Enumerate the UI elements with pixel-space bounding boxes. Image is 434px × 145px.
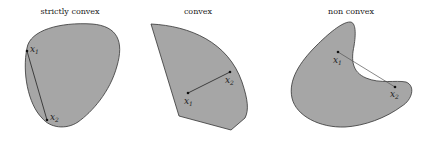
point-x2 (394, 86, 397, 89)
panel-title: strictly convex (40, 7, 100, 16)
point-x1 (26, 50, 29, 53)
panel-title: convex (184, 7, 213, 16)
point-x1 (187, 92, 190, 95)
point-x1 (337, 51, 340, 54)
panel-non-convex: non convex x1 x2 (291, 7, 412, 127)
non-convex-set (291, 22, 412, 127)
point-x2 (46, 119, 49, 122)
panel-title: non convex (328, 7, 374, 16)
point-x2 (229, 71, 232, 74)
panel-strictly-convex: strictly convex x1 x2 (25, 7, 119, 127)
strictly-convex-set (25, 24, 119, 127)
panel-convex: convex x1 x2 (151, 7, 247, 130)
convex-set (151, 24, 247, 130)
convexity-diagram: strictly convex x1 x2 convex x1 x2 non c… (0, 0, 434, 145)
